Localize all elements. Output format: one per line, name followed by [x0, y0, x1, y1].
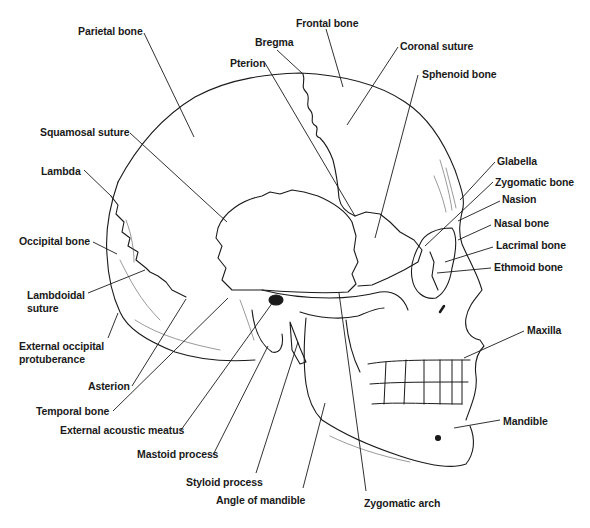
label-sphenoid-bone: Sphenoid bone [422, 68, 497, 81]
leader-asterion [132, 299, 186, 386]
label-lambda: Lambda [41, 165, 81, 178]
leader-zygomatic-bone [425, 182, 493, 246]
label-ethmoid-bone: Ethmoid bone [494, 261, 563, 274]
nasal-profile [460, 212, 484, 420]
label-temporal-bone: Temporal bone [36, 405, 109, 418]
acoustic-meatus [269, 295, 283, 305]
temporal-squama [216, 190, 358, 293]
label-zygomatic-bone: Zygomatic bone [495, 176, 574, 189]
leader-lambda [84, 170, 111, 196]
leader-zygomatic-arch [339, 293, 366, 491]
label-external-occipital-protuberance: External occipital protuberance [19, 340, 119, 366]
label-glabella: Glabella [497, 155, 537, 168]
teeth [368, 360, 470, 404]
leader-squamosal-suture [130, 133, 227, 222]
label-zygomatic-arch: Zygomatic arch [364, 497, 440, 510]
skull-diagram: Parietal boneFrontal boneBregmaCoronal s… [0, 0, 590, 528]
leader-mandible [454, 420, 500, 428]
label-mastoid-process: Mastoid process [137, 448, 218, 461]
leader-sphenoid-bone [375, 75, 418, 238]
label-occipital-bone: Occipital bone [19, 235, 90, 248]
label-lambdoidal-suture: Lambdoidal suture [27, 289, 87, 315]
leader-parietal-bone [144, 33, 194, 137]
mental-foramen [436, 436, 441, 441]
label-nasion: Nasion [502, 193, 536, 206]
leader-external-occipital-protuberance [108, 313, 118, 338]
label-parietal-bone: Parietal bone [78, 25, 143, 38]
leader-pterion [265, 63, 355, 216]
label-asterion: Asterion [88, 380, 130, 393]
leader-mastoid-process [213, 346, 268, 455]
leader-occipital-bone [93, 242, 117, 254]
label-angle-of-mandible: Angle of mandible [216, 494, 305, 507]
leader-bregma [277, 50, 303, 74]
label-bregma: Bregma [255, 36, 294, 49]
label-lacrimal-bone: Lacrimal bone [496, 239, 566, 252]
mandible-outline [304, 318, 473, 466]
leader-angle-of-mandible [303, 403, 325, 488]
leader-styloid-process [256, 342, 298, 473]
label-coronal-suture: Coronal suture [400, 40, 473, 53]
label-external-acoustic-meatus: External acoustic meatus [60, 424, 184, 437]
leader-lines [84, 29, 524, 491]
label-maxilla: Maxilla [527, 324, 561, 337]
leader-temporal-bone [113, 298, 228, 411]
label-pterion: Pterion [230, 57, 265, 70]
mastoid [252, 310, 283, 352]
leader-glabella [460, 162, 495, 200]
leader-maxilla [464, 331, 524, 358]
leader-nasal-bone [458, 225, 491, 240]
shading-hatches [120, 160, 456, 462]
infraorbital-foramen [440, 306, 444, 312]
cranium-outline [118, 73, 463, 212]
label-frontal-bone: Frontal bone [296, 17, 358, 30]
label-squamosal-suture: Squamosal suture [40, 126, 129, 139]
label-mandible: Mandible [503, 415, 548, 428]
label-styloid-process: Styloid process [186, 476, 263, 489]
ramus-front [346, 320, 360, 372]
leader-lambdoidal-suture [88, 270, 145, 293]
coronal-suture-line [303, 74, 355, 216]
leader-frontal-bone [326, 29, 343, 87]
orbit-inner [430, 252, 438, 290]
leader-ethmoid-bone [437, 268, 491, 273]
label-nasal-bone: Nasal bone [494, 217, 549, 230]
leader-external-acoustic-meatus [181, 302, 273, 430]
lambdoid-suture-line [111, 196, 186, 297]
leader-coronal-suture [347, 47, 398, 125]
